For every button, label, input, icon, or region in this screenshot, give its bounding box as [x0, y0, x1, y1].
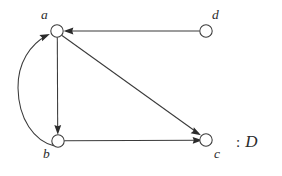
edge-d-to-a [64, 28, 200, 35]
edge-b-to-a-curve [18, 36, 55, 147]
edge-a-to-b [54, 37, 61, 135]
node-c[interactable] [200, 134, 212, 146]
figure-caption: :D [236, 133, 257, 150]
node-label-d: d [212, 8, 219, 22]
edge-b-to-a-arrowhead [39, 34, 50, 41]
edge-b-to-a [18, 34, 55, 146]
caption-colon: : [236, 134, 240, 150]
edge-a-to-c-line [62, 36, 199, 134]
edge-b-to-c-line [64, 140, 199, 141]
edge-a-to-b-arrowhead [54, 125, 61, 135]
node-label-b: b [43, 147, 50, 161]
node-d[interactable] [200, 25, 212, 37]
edge-d-to-a-arrowhead [64, 28, 74, 35]
node-a[interactable] [51, 25, 63, 37]
node-b[interactable] [52, 135, 64, 147]
node-label-a: a [41, 8, 48, 22]
directed-graph-figure: a b c d :D [0, 0, 282, 176]
edge-b-to-c [64, 137, 202, 144]
edge-a-to-c [62, 36, 201, 136]
node-label-c: c [214, 147, 220, 161]
caption-graph-name: D [245, 132, 257, 151]
